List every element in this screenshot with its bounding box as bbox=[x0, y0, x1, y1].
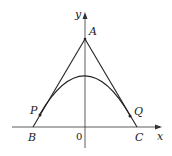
x-axis-label: x bbox=[157, 130, 164, 143]
label-p: P bbox=[29, 104, 38, 117]
label-q: Q bbox=[134, 105, 143, 118]
diagram-canvas: y x 0 A B C P Q bbox=[0, 0, 172, 156]
label-a: A bbox=[88, 25, 97, 38]
x-axis-arrow-icon bbox=[155, 125, 162, 130]
y-axis bbox=[83, 12, 88, 148]
origin-label: 0 bbox=[76, 131, 82, 142]
y-axis-arrow-icon bbox=[83, 12, 88, 19]
point-p bbox=[39, 114, 42, 117]
point-a bbox=[84, 38, 87, 41]
label-b: B bbox=[27, 131, 36, 144]
point-q bbox=[129, 115, 132, 118]
label-c: C bbox=[135, 131, 144, 144]
y-axis-label: y bbox=[74, 8, 82, 21]
